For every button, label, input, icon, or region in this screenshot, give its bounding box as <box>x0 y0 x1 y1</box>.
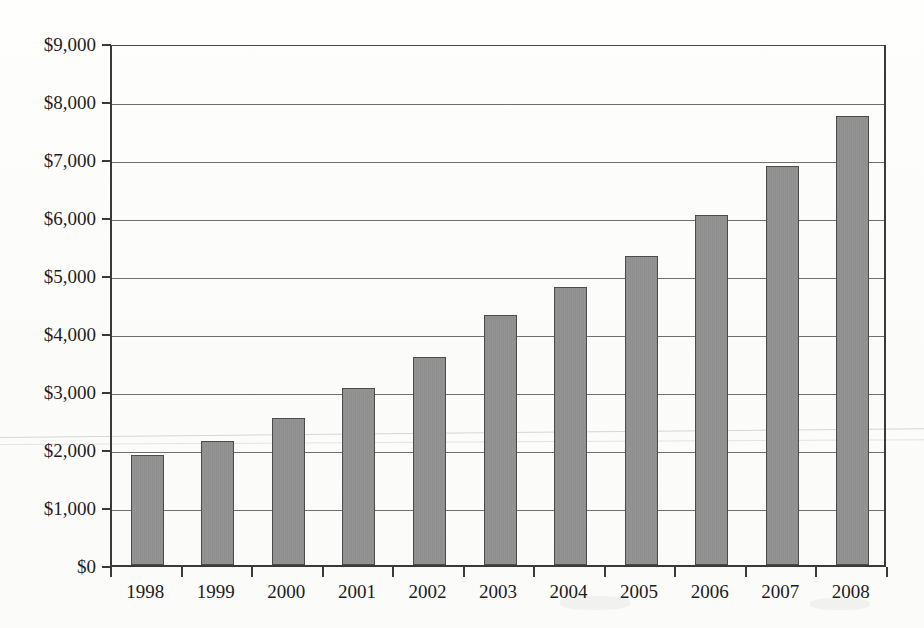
bar <box>342 388 375 565</box>
x-axis-tick-mark <box>463 567 465 577</box>
x-axis-tick-label: 2004 <box>529 581 609 603</box>
gridline <box>112 104 884 105</box>
x-axis-tick-mark <box>674 567 676 577</box>
x-axis-tick-label: 2001 <box>317 581 397 603</box>
x-axis-tick-mark <box>392 567 394 577</box>
bar <box>766 166 799 565</box>
x-axis-tick-label: 1998 <box>105 581 185 603</box>
x-axis-tick-label: 2002 <box>387 581 467 603</box>
x-axis-tick-label: 2006 <box>670 581 750 603</box>
x-axis-tick-mark <box>815 567 817 577</box>
bar <box>554 287 587 565</box>
bar <box>413 357 446 565</box>
x-axis-tick-mark <box>604 567 606 577</box>
bar <box>625 256 658 565</box>
bar <box>695 215 728 565</box>
bar <box>201 441 234 565</box>
x-axis-tick-mark <box>886 567 888 577</box>
y-axis-tick-label: $4,000 <box>0 324 96 346</box>
x-axis-tick-mark <box>110 567 112 577</box>
y-axis-tick-label: $3,000 <box>0 382 96 404</box>
y-axis-tick-label: $2,000 <box>0 440 96 462</box>
x-axis-tick-mark <box>322 567 324 577</box>
y-axis-tick-label: $0 <box>0 556 96 578</box>
plot-area <box>110 45 886 567</box>
y-axis-tick-label: $5,000 <box>0 266 96 288</box>
bar-chart: $0$1,000$2,000$3,000$4,000$5,000$6,000$7… <box>0 0 924 628</box>
x-axis-tick-label: 1999 <box>176 581 256 603</box>
x-axis-tick-mark <box>745 567 747 577</box>
bar <box>484 315 517 565</box>
bar <box>272 418 305 565</box>
y-axis-tick-label: $9,000 <box>0 34 96 56</box>
y-axis-tick-label: $7,000 <box>0 150 96 172</box>
x-axis-tick-mark <box>533 567 535 577</box>
bar <box>836 116 869 566</box>
x-axis-tick-label: 2008 <box>811 581 891 603</box>
x-axis-tick-label: 2007 <box>740 581 820 603</box>
x-axis-tick-label: 2000 <box>246 581 326 603</box>
x-axis-tick-label: 2003 <box>458 581 538 603</box>
x-axis-tick-mark <box>181 567 183 577</box>
y-axis-tick-label: $8,000 <box>0 92 96 114</box>
y-axis-tick-label: $6,000 <box>0 208 96 230</box>
bar <box>131 455 164 565</box>
y-axis-tick-label: $1,000 <box>0 498 96 520</box>
gridline <box>112 162 884 163</box>
x-axis-tick-mark <box>251 567 253 577</box>
x-axis-tick-label: 2005 <box>599 581 679 603</box>
